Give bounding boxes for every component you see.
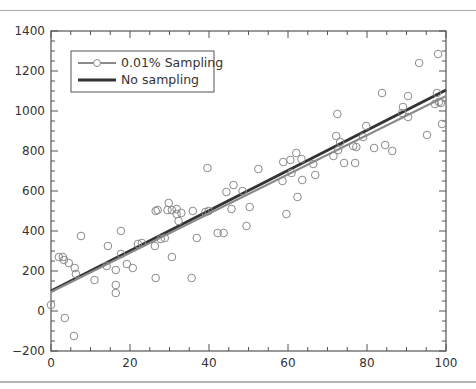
data-point	[193, 234, 201, 242]
data-point	[381, 141, 389, 149]
data-point	[77, 232, 85, 240]
data-point	[117, 227, 125, 235]
data-point	[370, 144, 378, 152]
x-tick-label: 20	[122, 356, 137, 370]
data-point	[165, 199, 173, 207]
y-tick-label: −200	[12, 344, 45, 358]
data-point	[415, 59, 423, 67]
data-point	[404, 92, 412, 100]
x-tick-label: 0	[47, 356, 55, 370]
data-point	[246, 203, 254, 211]
data-point	[255, 165, 263, 173]
y-tick-label: 200	[22, 264, 45, 278]
data-point	[189, 207, 197, 215]
y-tick-label: 800	[22, 144, 45, 158]
data-point	[223, 188, 231, 196]
data-point	[104, 242, 112, 250]
scatter-chart: 020406080100−200020040060080010001200140…	[0, 0, 476, 389]
data-point	[287, 156, 295, 164]
data-point	[112, 266, 120, 274]
data-point	[334, 110, 342, 118]
data-point	[129, 264, 137, 272]
data-point	[151, 242, 159, 250]
y-tick-label: 1400	[14, 24, 45, 38]
data-point	[168, 253, 176, 261]
y-tick-label: 0	[37, 304, 45, 318]
data-point	[298, 176, 306, 184]
legend-label-no-sampling: No sampling	[121, 72, 199, 87]
data-point	[61, 314, 69, 322]
data-point	[220, 229, 228, 237]
data-point	[228, 205, 236, 213]
sampling-fit-line	[51, 96, 446, 292]
data-point	[70, 332, 78, 340]
fit-lines	[51, 90, 446, 292]
x-tick-label: 60	[280, 356, 295, 370]
data-point	[164, 206, 172, 214]
data-point	[279, 158, 287, 166]
data-point	[388, 147, 396, 155]
legend: 0.01% Sampling No sampling	[71, 51, 223, 92]
x-tick-label: 80	[359, 356, 374, 370]
data-point	[279, 177, 287, 185]
data-point	[152, 274, 160, 282]
data-point	[311, 171, 319, 179]
legend-label-sampling: 0.01% Sampling	[121, 55, 223, 70]
data-point	[188, 274, 196, 282]
x-tick-label: 40	[201, 356, 216, 370]
legend-circle-marker-icon	[94, 60, 101, 67]
y-tick-label: 1200	[14, 64, 45, 78]
data-point	[112, 281, 120, 289]
data-point	[362, 122, 370, 130]
y-tick-label: 1000	[14, 104, 45, 118]
data-point	[298, 155, 306, 163]
data-point	[423, 131, 431, 139]
data-point	[175, 217, 183, 225]
x-tick-label: 100	[435, 356, 458, 370]
data-point	[294, 193, 302, 201]
data-point	[340, 159, 348, 167]
data-point	[204, 164, 212, 172]
y-tick-label: 600	[22, 184, 45, 198]
data-point	[283, 210, 291, 218]
y-tick-label: 400	[22, 224, 45, 238]
data-point	[351, 159, 359, 167]
data-point	[230, 181, 238, 189]
no-sampling-line	[51, 90, 446, 291]
data-point	[243, 222, 251, 230]
data-point	[434, 50, 442, 58]
data-point	[91, 276, 99, 284]
data-point	[178, 209, 186, 217]
data-point	[112, 289, 120, 297]
data-point	[378, 89, 386, 97]
